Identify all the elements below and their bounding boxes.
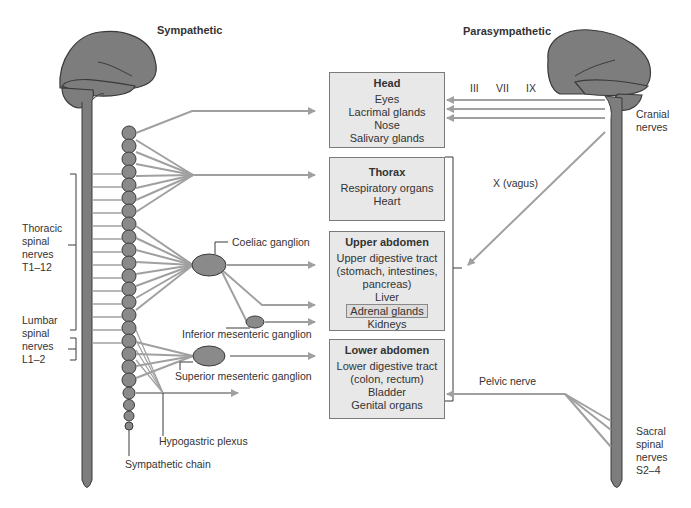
organ-item: Lacrimal glands bbox=[330, 106, 444, 119]
cranial-nerve-iii: III bbox=[470, 82, 479, 95]
superior-mesenteric-label: Superior mesenteric ganglion bbox=[175, 370, 312, 383]
lumbar-nerves-label: Lumbar spinal nerves L1–2 bbox=[22, 314, 58, 366]
organ-item: pancreas) bbox=[330, 278, 444, 291]
organ-item: Respiratory organs bbox=[330, 182, 444, 195]
sacral-nerves-label: Sacral spinal nerves S2–4 bbox=[636, 425, 668, 477]
parasympathetic-title: Parasympathetic bbox=[463, 25, 551, 37]
ganglia bbox=[192, 254, 264, 366]
thoracic-nerves-label: Thoracic spinal nerves T1–12 bbox=[22, 222, 62, 274]
organ-item: Eyes bbox=[330, 93, 444, 106]
organ-heading: Thorax bbox=[330, 166, 444, 179]
organ-box-lower-abdomen: Lower abdomen Lower digestive tract (col… bbox=[329, 339, 445, 419]
superior-mesenteric-ganglion bbox=[193, 346, 225, 366]
sympathetic-chain bbox=[122, 126, 136, 430]
organ-heading: Head bbox=[330, 77, 444, 90]
coeliac-ganglion-label: Coeliac ganglion bbox=[232, 236, 310, 249]
organ-heading: Lower abdomen bbox=[330, 344, 444, 357]
organ-item: Salivary glands bbox=[330, 132, 444, 145]
organ-box-thorax: Thorax Respiratory organs Heart bbox=[329, 157, 445, 221]
parasympathetic-nerves bbox=[447, 100, 611, 447]
organ-item: Liver bbox=[330, 291, 444, 304]
cranial-nerve-vii: VII bbox=[496, 82, 509, 95]
organ-item: Heart bbox=[330, 195, 444, 208]
organ-item: (stomach, intestines, bbox=[330, 265, 444, 278]
organ-item: Nose bbox=[330, 119, 444, 132]
organ-heading: Upper abdomen bbox=[330, 236, 444, 249]
sympathetic-title: Sympathetic bbox=[157, 24, 222, 36]
organ-box-head: Head Eyes Lacrimal glands Nose Salivary … bbox=[329, 72, 445, 148]
organ-box-upper-abdomen: Upper abdomen Upper digestive tract (sto… bbox=[329, 231, 445, 331]
inferior-mesenteric-label: Inferior mesenteric ganglion bbox=[182, 328, 312, 341]
pelvic-nerve-label: Pelvic nerve bbox=[479, 375, 536, 388]
coeliac-ganglion bbox=[192, 254, 226, 276]
organ-item: (colon, rectum) bbox=[330, 373, 444, 386]
sympathetic-nerves bbox=[136, 111, 315, 393]
inferior-mesenteric-ganglion bbox=[246, 316, 264, 328]
organ-item: Bladder bbox=[330, 386, 444, 399]
sympathetic-chain-label: Sympathetic chain bbox=[125, 458, 211, 471]
vagus-label: X (vagus) bbox=[493, 177, 538, 190]
sympathetic-cns bbox=[60, 31, 156, 487]
cranial-nerve-ix: IX bbox=[526, 82, 536, 95]
hypogastric-plexus-label: Hypogastric plexus bbox=[159, 435, 248, 448]
organ-item: Lower digestive tract bbox=[330, 360, 444, 373]
organ-item-adrenal: Adrenal glands bbox=[346, 304, 427, 318]
organ-item: Upper digestive tract bbox=[330, 252, 444, 265]
spinal-nerve-rungs bbox=[92, 174, 122, 343]
cranial-nerves-label: Cranial nerves bbox=[636, 108, 669, 134]
parasympathetic-cns bbox=[548, 30, 651, 488]
organ-item: Genital organs bbox=[330, 399, 444, 412]
organ-item: Kidneys bbox=[330, 318, 444, 331]
